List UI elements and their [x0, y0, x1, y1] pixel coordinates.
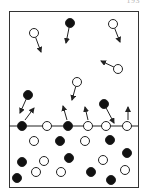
liquid-filled-molecule	[123, 149, 132, 158]
escape-arrow	[25, 108, 34, 120]
liquid-open-molecule	[32, 168, 41, 177]
gas-motion-arrow	[106, 108, 114, 123]
gas-open-molecule	[73, 78, 82, 87]
gas-motion-arrow	[72, 86, 76, 100]
surface-filled-molecule	[64, 122, 73, 131]
gas-motion-arrow	[115, 28, 120, 42]
gas-filled-molecule	[24, 91, 33, 100]
surface-open-molecule	[84, 122, 93, 131]
liquid-open-molecule	[99, 156, 108, 165]
gas-motion-arrow	[36, 37, 41, 52]
particles	[13, 19, 132, 185]
liquid-open-molecule	[40, 157, 49, 166]
gas-open-molecule	[30, 29, 39, 38]
liquid-filled-molecule	[107, 176, 116, 185]
liquid-filled-molecule	[106, 136, 115, 145]
surface-open-molecule	[102, 122, 111, 131]
liquid-filled-molecule	[65, 154, 74, 163]
particle-diagram	[0, 0, 144, 194]
surface-filled-molecule	[18, 122, 27, 131]
surface-open-molecule	[123, 122, 132, 131]
liquid-open-molecule	[121, 166, 130, 175]
surface-open-molecule	[43, 122, 52, 131]
escape-arrow	[63, 106, 67, 120]
liquid-open-molecule	[30, 137, 39, 146]
liquid-open-molecule	[57, 168, 66, 177]
gas-motion-arrow	[66, 27, 69, 43]
gas-motion-arrow	[20, 99, 26, 113]
escape-arrow	[85, 107, 88, 120]
liquid-open-molecule	[81, 137, 90, 146]
liquid-filled-molecule	[13, 174, 22, 183]
liquid-filled-molecule	[18, 158, 27, 167]
gas-open-molecule	[109, 20, 118, 29]
liquid-filled-molecule	[87, 168, 96, 177]
gas-open-molecule	[114, 65, 123, 74]
motion-arrows	[20, 27, 128, 123]
liquid-filled-molecule	[56, 137, 65, 146]
gas-motion-arrow	[101, 61, 114, 67]
gas-filled-molecule	[66, 19, 75, 28]
gas-filled-molecule	[100, 100, 109, 109]
